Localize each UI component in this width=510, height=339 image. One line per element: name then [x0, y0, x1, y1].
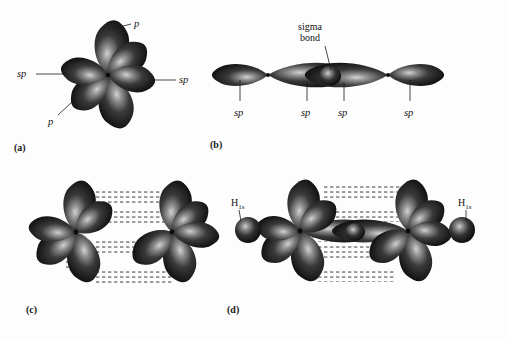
orbital-diagram-svg: p p sp sp (a) sigma bond [0, 0, 510, 339]
label-sp-right: sp [179, 74, 188, 85]
label-sp-b1: sp [234, 107, 243, 118]
d-left-nucleus [298, 229, 303, 234]
c-right-nucleus [170, 230, 175, 235]
label-sp-left: sp [17, 68, 26, 79]
label-sp-b4: sp [404, 107, 413, 118]
hydrogen-1s-left [235, 217, 261, 243]
figure-canvas: p p sp sp (a) sigma bond [0, 0, 510, 339]
label-sp-b3: sp [338, 107, 347, 118]
panel-b-carbon-nucleus-right [386, 73, 390, 77]
label-sigma-bond-line2: bond [300, 32, 320, 43]
d-right-nucleus [406, 229, 411, 234]
panel-label-d: (d) [227, 304, 239, 316]
figure-background [0, 0, 510, 339]
label-sp-b2: sp [301, 107, 310, 118]
pi-band-bottom [94, 268, 174, 284]
label-p-lower: p [47, 116, 53, 127]
panel-label-c: (c) [26, 304, 37, 316]
hydrogen-1s-right [449, 217, 475, 243]
label-p-upper: p [133, 18, 139, 29]
carbon-nucleus [106, 73, 110, 77]
panel-label-b: (b) [210, 139, 222, 151]
panel-label-a: (a) [14, 142, 26, 154]
c-left-nucleus [74, 230, 79, 235]
d-pi-band-bottom [318, 268, 396, 282]
panel-b-carbon-nucleus-left [266, 73, 270, 77]
panel-d-sigma-overlap [345, 223, 365, 241]
sigma-overlap-region [319, 66, 341, 86]
label-sigma-bond-line1: sigma [298, 21, 322, 32]
d-pi-band-top [322, 186, 400, 201]
